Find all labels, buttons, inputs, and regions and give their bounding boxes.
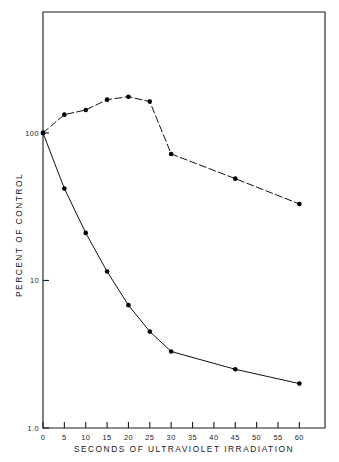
x-tick-label: 60 <box>295 433 304 442</box>
series-path <box>43 97 299 204</box>
series-path <box>43 133 299 384</box>
x-axis-ticks: 051015202530354045505560 <box>41 422 304 442</box>
series-lower-curve <box>41 131 302 386</box>
y-tick-label: 1.0 <box>27 424 39 433</box>
x-tick-label: 40 <box>209 433 218 442</box>
series-upper-curve <box>41 94 302 206</box>
y-axis-ticks: 1.010100 <box>25 129 49 433</box>
y-tick-label: 100 <box>25 129 39 138</box>
x-axis-title: SECONDS OF ULTRAVIOLET IRRADIATION <box>74 444 294 454</box>
x-tick-label: 25 <box>145 433 154 442</box>
x-tick-label: 5 <box>62 433 67 442</box>
data-point-marker <box>169 152 174 157</box>
x-tick-label: 0 <box>41 433 46 442</box>
axes-frame <box>43 12 325 428</box>
x-tick-label: 10 <box>81 433 90 442</box>
y-tick-label: 10 <box>30 276 39 285</box>
data-point-marker <box>297 381 302 386</box>
data-point-marker <box>148 99 153 104</box>
x-tick-label: 45 <box>231 433 240 442</box>
data-point-marker <box>83 108 88 113</box>
data-point-marker <box>126 303 131 308</box>
figure-panel: 1.010100 051015202530354045505560 SECOND… <box>0 0 339 462</box>
data-series-group <box>41 94 302 386</box>
x-tick-label: 35 <box>188 433 197 442</box>
y-axis-title: PERCENT OF CONTROL <box>14 173 24 297</box>
chart-canvas: 1.010100 051015202530354045505560 SECOND… <box>0 0 339 462</box>
x-tick-label: 20 <box>124 433 133 442</box>
data-point-marker <box>233 176 238 181</box>
data-point-marker <box>41 131 46 136</box>
data-point-marker <box>148 329 153 334</box>
data-point-marker <box>233 367 238 372</box>
x-tick-label: 30 <box>167 433 176 442</box>
x-tick-label: 50 <box>252 433 261 442</box>
data-point-marker <box>126 94 131 99</box>
x-tick-label: 55 <box>273 433 282 442</box>
data-point-marker <box>105 97 110 102</box>
data-point-marker <box>62 186 67 191</box>
data-point-marker <box>105 269 110 274</box>
data-point-marker <box>169 349 174 354</box>
data-point-marker <box>297 202 302 207</box>
data-point-marker <box>83 231 88 236</box>
data-point-marker <box>62 112 67 117</box>
x-tick-label: 15 <box>103 433 112 442</box>
